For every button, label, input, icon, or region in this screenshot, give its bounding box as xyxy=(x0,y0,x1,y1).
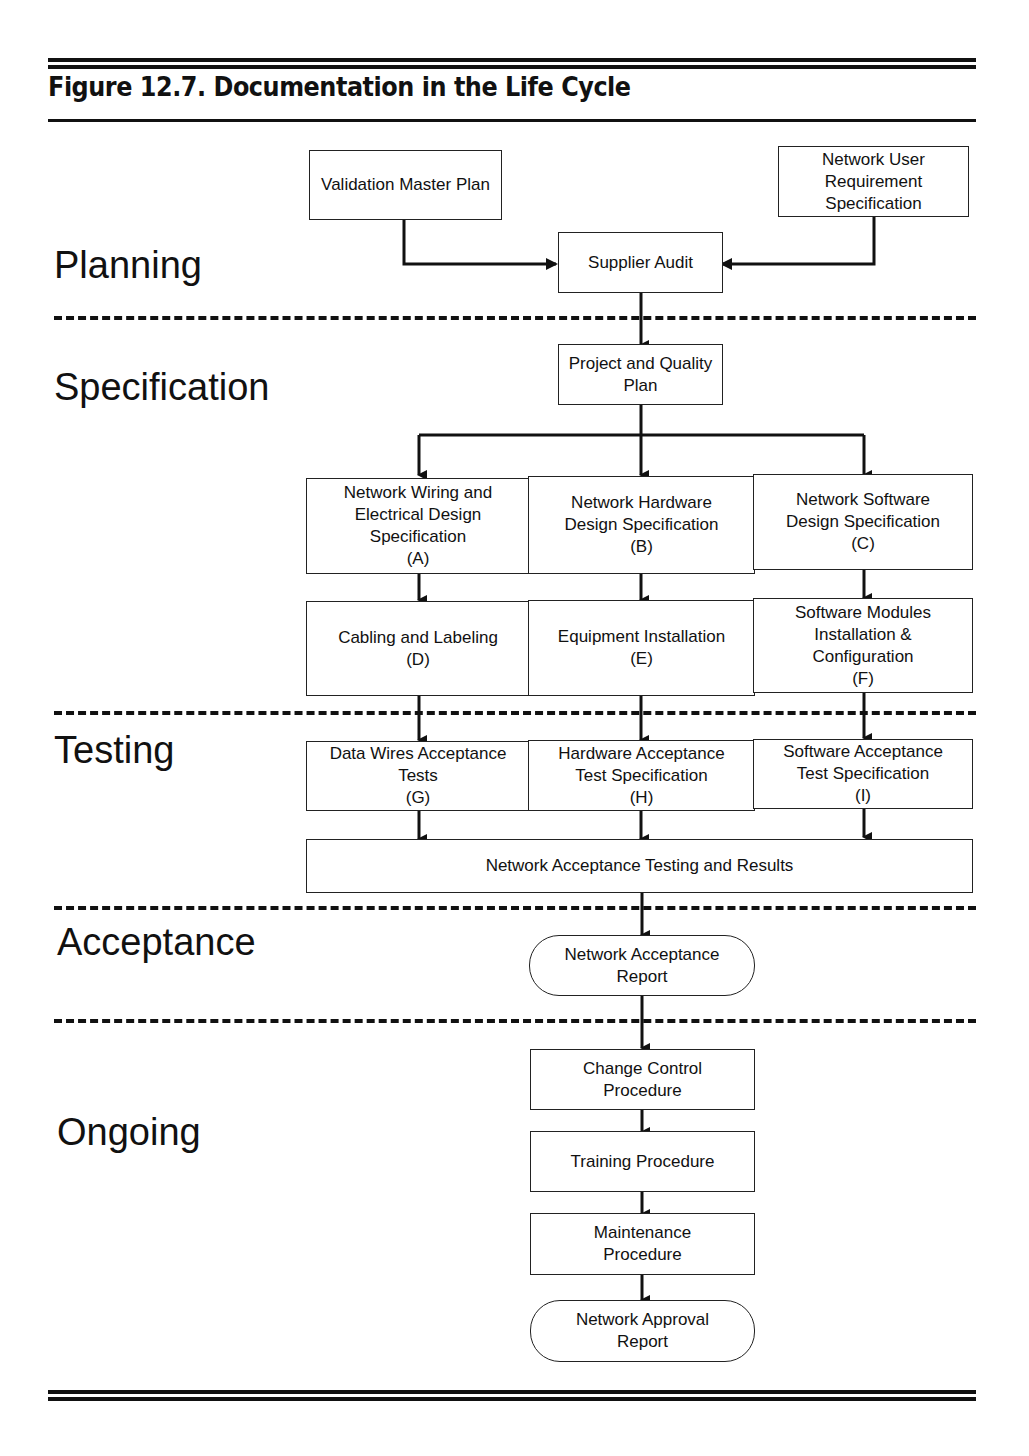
node-a-wiring-electrical-spec: Network Wiring and Electrical Design Spe… xyxy=(306,478,530,574)
bottom-rule-1 xyxy=(48,1390,976,1394)
node-network-acceptance-report: Network Acceptance Report xyxy=(529,935,755,996)
node-e-equipment-installation: Equipment Installation (E) xyxy=(528,600,755,696)
node-b-hardware-design-spec: Network Hardware Design Specification (B… xyxy=(528,476,755,574)
flow-connectors xyxy=(0,0,1029,1456)
node-h-hardware-acceptance: Hardware Acceptance Test Specification (… xyxy=(528,740,755,811)
node-network-user-requirement-spec: Network User Requirement Specification xyxy=(778,146,969,217)
node-training-procedure: Training Procedure xyxy=(530,1131,755,1192)
node-d-cabling-labeling: Cabling and Labeling (D) xyxy=(306,601,530,696)
node-validation-master-plan: Validation Master Plan xyxy=(309,150,502,220)
bottom-rule-2 xyxy=(48,1397,976,1401)
connector-nurs-to-audit xyxy=(722,216,874,264)
connector-pqp-branch xyxy=(419,404,864,435)
node-network-approval-report: Network Approval Report xyxy=(530,1300,755,1362)
node-maintenance-procedure: Maintenance Procedure xyxy=(530,1213,755,1275)
node-f-software-modules-install: Software Modules Installation & Configur… xyxy=(753,598,973,693)
node-supplier-audit: Supplier Audit xyxy=(558,232,723,293)
node-project-quality-plan: Project and Quality Plan xyxy=(558,344,723,405)
node-network-acceptance-testing: Network Acceptance Testing and Results xyxy=(306,839,973,893)
node-c-software-design-spec: Network Software Design Specification (C… xyxy=(753,474,973,570)
node-i-software-acceptance: Software Acceptance Test Specification (… xyxy=(753,739,973,809)
node-g-data-wires-acceptance: Data Wires Acceptance Tests (G) xyxy=(306,741,530,811)
connector-vmp-to-audit xyxy=(404,219,556,264)
node-change-control-procedure: Change Control Procedure xyxy=(530,1049,755,1110)
